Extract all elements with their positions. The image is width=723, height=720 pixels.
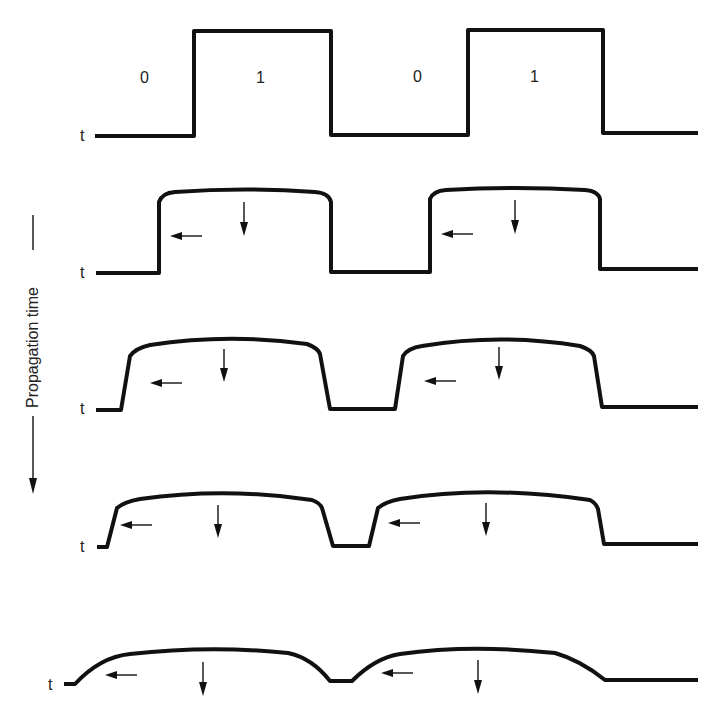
stage-4-waveform: t	[80, 492, 698, 555]
time-label: t	[48, 676, 53, 693]
left-arrow-icon	[424, 377, 456, 385]
down-arrow-icon	[29, 478, 37, 494]
stage-3-waveform: t	[80, 339, 698, 417]
down-arrow-icon	[240, 202, 248, 236]
bit-label-1: 1	[256, 69, 265, 86]
stage-2-waveform: t	[80, 188, 698, 281]
down-arrow-icon	[511, 200, 519, 234]
bit-label-3: 1	[530, 68, 539, 85]
down-arrow-icon	[220, 349, 228, 382]
bit-label-2: 0	[413, 68, 422, 85]
left-arrow-icon	[120, 521, 152, 529]
time-label: t	[80, 538, 85, 555]
left-arrow-icon	[150, 379, 182, 387]
down-arrow-icon	[495, 347, 503, 380]
down-arrow-icon	[474, 660, 482, 694]
waveform-diagram: Propagation time t 0 1 0 1 t	[0, 0, 723, 720]
left-arrow-icon	[105, 671, 137, 679]
left-arrow-icon	[441, 230, 473, 238]
stage-1-waveform: t 0 1 0 1	[80, 30, 698, 144]
time-label: t	[80, 264, 85, 281]
left-arrow-icon	[388, 519, 420, 527]
time-label: t	[80, 127, 85, 144]
down-arrow-icon	[214, 505, 222, 538]
propagation-time-axis: Propagation time	[24, 215, 41, 494]
propagation-time-label: Propagation time	[24, 287, 41, 408]
left-arrow-icon	[381, 669, 413, 677]
time-label: t	[80, 400, 85, 417]
stage-5-waveform: t	[48, 649, 698, 696]
left-arrow-icon	[170, 232, 202, 240]
down-arrow-icon	[199, 662, 207, 696]
down-arrow-icon	[482, 503, 490, 536]
bit-label-0: 0	[140, 69, 149, 86]
